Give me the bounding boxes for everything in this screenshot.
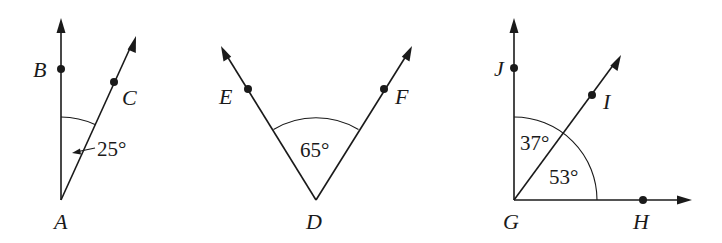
pointer-arrow-icon xyxy=(72,149,81,155)
label-j: J xyxy=(494,56,505,81)
angle-label-edf: 65° xyxy=(300,138,329,162)
point-j xyxy=(510,64,518,72)
angle-arc-bac xyxy=(61,117,95,125)
ray-df xyxy=(316,56,406,200)
label-d: D xyxy=(305,209,322,234)
label-i: I xyxy=(602,89,612,114)
figure-angle-edf: 65° E F D xyxy=(218,46,412,234)
point-b xyxy=(57,65,65,73)
angle-arc-edf xyxy=(274,118,359,130)
ray-ac xyxy=(61,46,131,200)
label-g: G xyxy=(503,209,519,234)
label-e: E xyxy=(218,84,233,109)
point-c xyxy=(110,78,118,86)
arrowhead-ab-icon xyxy=(57,18,66,33)
angle-label-jgi: 37° xyxy=(520,131,549,155)
label-a: A xyxy=(52,209,68,234)
arrowhead-gj-icon xyxy=(510,18,519,33)
point-f xyxy=(380,85,388,93)
angle-diagrams: 25° B C A 65° E F D 37° 53° J I H G xyxy=(0,0,722,243)
figure-angle-jgh: 37° 53° J I H G xyxy=(494,18,692,234)
arrowhead-gi-icon xyxy=(610,55,621,71)
point-i xyxy=(588,91,596,99)
point-e xyxy=(244,85,252,93)
arrowhead-gh-icon xyxy=(677,196,692,205)
label-f: F xyxy=(394,84,409,109)
point-h xyxy=(639,196,647,204)
label-c: C xyxy=(122,85,137,110)
label-b: B xyxy=(33,57,46,82)
angle-label-igh: 53° xyxy=(549,165,578,189)
angle-label-bac: 25° xyxy=(97,137,126,161)
label-h: H xyxy=(632,209,650,234)
ray-de xyxy=(227,56,316,200)
figure-angle-bac: 25° B C A xyxy=(33,18,137,234)
